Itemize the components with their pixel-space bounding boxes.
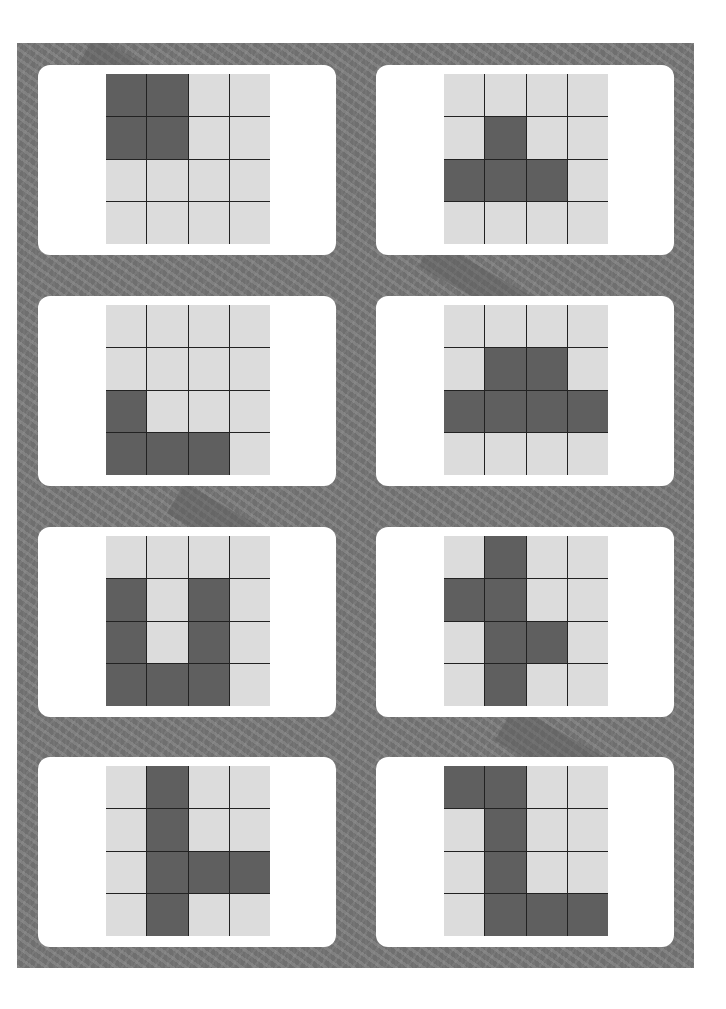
grid-cell-empty xyxy=(485,305,525,347)
grid-cell-filled xyxy=(444,160,484,202)
grid-cell-empty xyxy=(568,433,608,475)
grid-cell-filled xyxy=(444,766,484,808)
grid-cell-empty xyxy=(444,809,484,851)
pattern-grid xyxy=(106,74,270,244)
pattern-grid xyxy=(106,766,270,936)
grid-cell-filled xyxy=(485,622,525,664)
grid-cell-empty xyxy=(444,664,484,706)
grid-cell-empty xyxy=(527,766,567,808)
grid-cell-empty xyxy=(189,391,229,433)
grid-cell-empty xyxy=(485,74,525,116)
pattern-card-7[interactable] xyxy=(38,757,336,947)
grid-cell-empty xyxy=(444,202,484,244)
grid-cell-empty xyxy=(106,766,146,808)
grid-cell-empty xyxy=(147,202,187,244)
grid-cell-empty xyxy=(568,664,608,706)
grid-cell-empty xyxy=(106,202,146,244)
grid-cell-empty xyxy=(568,766,608,808)
grid-cell-filled xyxy=(106,117,146,159)
grid-cell-empty xyxy=(189,766,229,808)
grid-cell-empty xyxy=(444,348,484,390)
grid-cell-filled xyxy=(444,579,484,621)
grid-cell-filled xyxy=(106,664,146,706)
grid-cell-empty xyxy=(444,536,484,578)
grid-cell-empty xyxy=(568,579,608,621)
grid-cell-empty xyxy=(568,305,608,347)
grid-cell-empty xyxy=(568,852,608,894)
grid-cell-empty xyxy=(230,536,270,578)
pattern-grid xyxy=(106,305,270,475)
grid-cell-empty xyxy=(527,809,567,851)
grid-cell-filled xyxy=(189,852,229,894)
pattern-card-4[interactable] xyxy=(376,296,674,486)
grid-cell-filled xyxy=(147,664,187,706)
grid-cell-filled xyxy=(147,809,187,851)
grid-cell-filled xyxy=(189,579,229,621)
grid-cell-filled xyxy=(527,622,567,664)
grid-cell-empty xyxy=(527,305,567,347)
pattern-card-1[interactable] xyxy=(38,65,336,255)
grid-cell-filled xyxy=(485,852,525,894)
grid-cell-empty xyxy=(147,160,187,202)
grid-cell-empty xyxy=(444,894,484,936)
grid-cell-empty xyxy=(230,74,270,116)
grid-cell-empty xyxy=(230,766,270,808)
grid-cell-filled xyxy=(485,348,525,390)
grid-cell-empty xyxy=(189,536,229,578)
grid-cell-empty xyxy=(444,852,484,894)
grid-cell-empty xyxy=(147,305,187,347)
grid-cell-filled xyxy=(189,622,229,664)
grid-cell-empty xyxy=(230,348,270,390)
grid-cell-empty xyxy=(527,202,567,244)
grid-cell-filled xyxy=(147,766,187,808)
grid-cell-empty xyxy=(189,894,229,936)
grid-cell-filled xyxy=(485,664,525,706)
grid-cell-empty xyxy=(106,852,146,894)
grid-cell-empty xyxy=(568,74,608,116)
grid-cell-empty xyxy=(189,305,229,347)
grid-cell-empty xyxy=(568,160,608,202)
pattern-grid xyxy=(444,766,608,936)
grid-cell-filled xyxy=(527,160,567,202)
grid-cell-filled xyxy=(485,579,525,621)
grid-cell-empty xyxy=(527,117,567,159)
grid-cell-filled xyxy=(485,766,525,808)
pattern-card-8[interactable] xyxy=(376,757,674,947)
grid-cell-filled xyxy=(106,391,146,433)
pattern-card-2[interactable] xyxy=(376,65,674,255)
grid-cell-empty xyxy=(527,579,567,621)
pattern-card-3[interactable] xyxy=(38,296,336,486)
pattern-grid xyxy=(444,74,608,244)
pattern-card-6[interactable] xyxy=(376,527,674,717)
grid-cell-empty xyxy=(230,391,270,433)
grid-cell-empty xyxy=(444,433,484,475)
grid-cell-empty xyxy=(230,202,270,244)
grid-cell-empty xyxy=(527,433,567,475)
grid-cell-filled xyxy=(485,809,525,851)
grid-cell-empty xyxy=(568,809,608,851)
grid-cell-empty xyxy=(189,202,229,244)
grid-cell-empty xyxy=(230,809,270,851)
grid-cell-filled xyxy=(147,433,187,475)
grid-cell-empty xyxy=(106,536,146,578)
grid-cell-filled xyxy=(147,894,187,936)
grid-cell-filled xyxy=(147,117,187,159)
grid-cell-empty xyxy=(230,622,270,664)
grid-cell-empty xyxy=(230,579,270,621)
grid-cell-empty xyxy=(147,536,187,578)
grid-cell-empty xyxy=(230,117,270,159)
grid-cell-empty xyxy=(230,433,270,475)
grid-cell-empty xyxy=(189,348,229,390)
pattern-card-5[interactable] xyxy=(38,527,336,717)
grid-cell-empty xyxy=(485,202,525,244)
grid-cell-empty xyxy=(230,160,270,202)
grid-cell-filled xyxy=(106,622,146,664)
grid-cell-empty xyxy=(106,348,146,390)
grid-cell-filled xyxy=(444,391,484,433)
grid-cell-empty xyxy=(230,894,270,936)
grid-cell-filled xyxy=(106,433,146,475)
grid-cell-filled xyxy=(485,160,525,202)
grid-cell-empty xyxy=(527,536,567,578)
grid-cell-empty xyxy=(189,74,229,116)
grid-cell-empty xyxy=(230,305,270,347)
